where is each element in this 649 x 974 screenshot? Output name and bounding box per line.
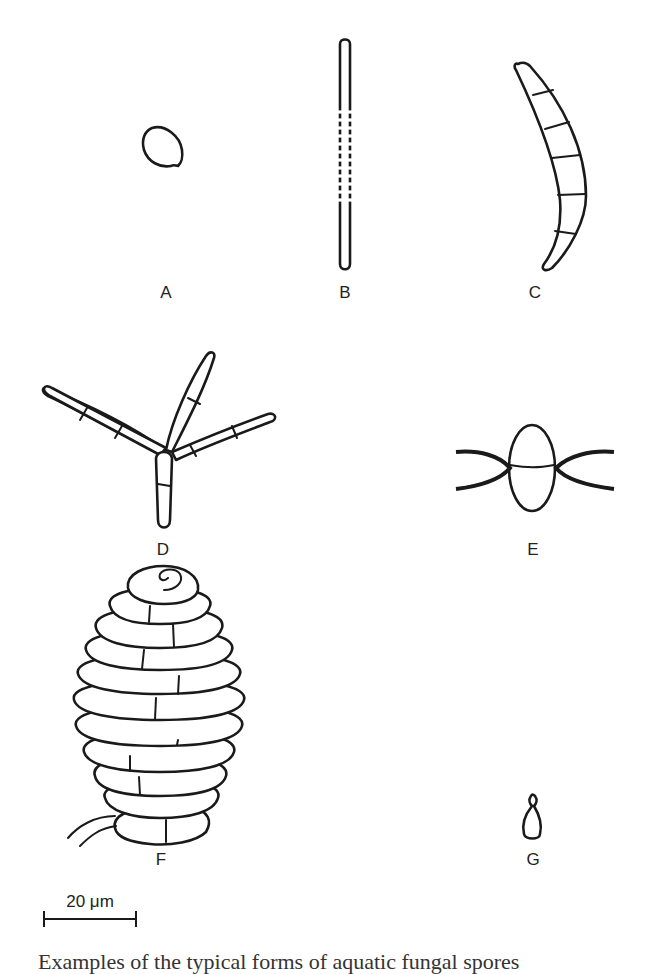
panel-label-c: C bbox=[529, 283, 541, 302]
panel-a-spore-shape bbox=[143, 127, 182, 166]
panel-label-d: D bbox=[157, 540, 169, 559]
panel-b-spore-shape bbox=[338, 40, 352, 270]
panel-label-e: E bbox=[527, 540, 538, 559]
panel-label-a: A bbox=[160, 283, 172, 302]
panel-g-spore-shape bbox=[523, 795, 540, 839]
panel-label-b: B bbox=[339, 283, 350, 302]
panel-label-f: F bbox=[156, 850, 166, 869]
panel-c-spore-shape bbox=[515, 63, 586, 270]
scale-bar-label: 20 μm bbox=[66, 892, 114, 911]
scale-bar bbox=[44, 911, 136, 927]
panel-d-spore-shape bbox=[43, 352, 275, 527]
panel-label-g: G bbox=[526, 850, 539, 869]
panel-f-spore-shape bbox=[68, 566, 244, 846]
figure-caption: Examples of the typical forms of aquatic… bbox=[38, 951, 519, 973]
panel-e-spore-shape bbox=[456, 425, 614, 511]
